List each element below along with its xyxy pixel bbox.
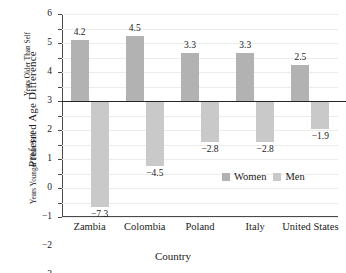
x-axis-category-label: Italy — [225, 221, 285, 233]
bar-women-poland — [181, 53, 199, 101]
y-axis-tick-label: 6 — [47, 9, 52, 19]
gridline — [62, 29, 338, 30]
x-axis-title: Country — [0, 250, 346, 262]
bar-men-colombia — [146, 101, 164, 166]
x-axis-category-label: United States — [280, 221, 340, 233]
bar-value-label: 3.3 — [223, 41, 267, 51]
y-axis-lower-direction-label: Years Younger Than Self — [30, 120, 38, 216]
y-axis-tick-label: −1 — [42, 212, 52, 222]
bar-value-label: 4.5 — [113, 24, 157, 34]
y-axis-tick: 2 — [58, 72, 62, 73]
y-axis-tick: 6 — [58, 14, 62, 15]
gridline — [62, 14, 338, 15]
y-axis-tick: −3 — [58, 145, 62, 146]
y-axis-tick: 3 — [58, 58, 62, 59]
bar-men-united-states — [311, 101, 329, 129]
y-axis-tick: −7 — [58, 203, 62, 204]
y-axis-tick: 4 — [58, 43, 62, 44]
legend-label-women: Women — [234, 172, 266, 183]
y-axis-tick-label: 5 — [47, 38, 52, 48]
y-axis-tick: 1 — [58, 87, 62, 88]
bar-value-label: 3.3 — [168, 41, 212, 51]
y-axis-tick: −8 — [58, 217, 62, 218]
legend-swatch-icon-men — [273, 173, 281, 181]
bar-women-united-states — [291, 65, 309, 101]
bar-value-label: −1.9 — [298, 132, 342, 142]
bar-value-label: −2.8 — [243, 145, 287, 155]
bar-women-zambia — [71, 40, 89, 101]
bar-women-colombia — [126, 36, 144, 101]
y-axis-tick-label: 3 — [47, 96, 52, 106]
legend-label-men: Men — [285, 172, 304, 183]
y-axis-tick-label: 0 — [47, 183, 52, 193]
y-axis-tick: −6 — [58, 188, 62, 189]
legend-swatch-icon-women — [222, 173, 230, 181]
y-axis-tick-label: 4 — [47, 67, 52, 77]
bar-value-label: −4.5 — [133, 169, 177, 179]
y-axis-tick: −5 — [58, 174, 62, 175]
y-axis-tick: −1 — [58, 116, 62, 117]
bar-value-label: −7.3 — [78, 210, 122, 220]
legend-item-men: Men — [273, 172, 304, 183]
bar-value-label: −2.8 — [188, 145, 232, 155]
bar-men-italy — [256, 101, 274, 142]
y-axis-upper-direction-label: Years Older Than Self — [24, 20, 32, 108]
y-axis-tick: −4 — [58, 159, 62, 160]
bar-men-poland — [201, 101, 219, 142]
bar-men-zambia — [91, 101, 109, 207]
y-axis-tick: −2 — [58, 130, 62, 131]
bar-value-label: 2.5 — [278, 53, 322, 63]
bar-value-label: 4.2 — [58, 28, 102, 38]
y-axis-tick-label: 1 — [47, 154, 52, 164]
y-axis-tick-label: 2 — [47, 125, 52, 135]
bar-chart: Preferred Age Difference Years Older Tha… — [0, 0, 346, 273]
plot-area: 6543210−1−2−3−4−5−6−7−8 4.2−7.34.5−4.53.… — [62, 14, 338, 217]
x-axis-category-label: Colombia — [115, 221, 175, 233]
legend: Women Men — [222, 172, 305, 183]
x-axis-category-label: Zambia — [60, 221, 120, 233]
bar-women-italy — [236, 53, 254, 101]
zero-line — [62, 101, 346, 102]
legend-item-women: Women — [222, 172, 266, 183]
x-axis-category-label: Poland — [170, 221, 230, 233]
